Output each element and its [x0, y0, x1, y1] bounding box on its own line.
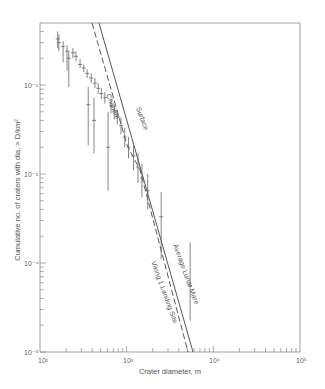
y-tick-label: 10⁻⁴: [24, 260, 39, 267]
data-point: [93, 78, 97, 88]
data-point: [92, 98, 96, 154]
surface-line: [99, 23, 193, 352]
channel-label: Channel: [105, 93, 121, 120]
surface-label: Surface: [135, 106, 150, 131]
data-point: [82, 64, 86, 72]
data-point: [99, 88, 103, 99]
y-tick-labels: 10⁻² 10⁻³ 10⁻⁴ 10⁻⁵: [24, 82, 39, 356]
crater-density-chart: 10² 10³ 10⁴ 10⁵ 10⁻² 10⁻³ 10⁻⁴ 10⁻⁵ Crat…: [0, 0, 325, 389]
data-point: [89, 73, 93, 83]
data-point: [106, 112, 110, 191]
data-point: [159, 192, 163, 259]
data-point: [61, 41, 65, 62]
data-point: [78, 59, 82, 68]
x-axis-ticks: [66, 346, 296, 352]
x-tick-label: 10⁴: [209, 357, 220, 364]
data-point: [96, 83, 100, 94]
lunar-mare-label: Average Lunar Mare: [171, 243, 200, 306]
data-point: [85, 69, 89, 78]
y-axis-ticks: [40, 31, 46, 352]
data-point: [86, 87, 90, 145]
data-point: [127, 137, 131, 158]
y-tick-label: 10⁻⁵: [24, 349, 39, 356]
viking-label: Viking 1 Landing Site: [149, 260, 179, 325]
x-tick-labels: 10² 10³ 10⁴ 10⁵: [38, 357, 307, 364]
x-tick-label: 10⁵: [296, 357, 307, 364]
y-tick-label: 10⁻²: [24, 82, 39, 89]
x-axis-title: Crater diameter, m: [139, 367, 201, 376]
x-tick-label: 10³: [123, 357, 134, 364]
x-tick-label: 10²: [38, 357, 49, 364]
y-tick-label: 10⁻³: [24, 171, 39, 178]
reference-curves: [92, 23, 193, 352]
channel-line: [92, 23, 188, 352]
y-axis-title: Cumulative no. of craters with dia. > D/…: [13, 119, 22, 261]
